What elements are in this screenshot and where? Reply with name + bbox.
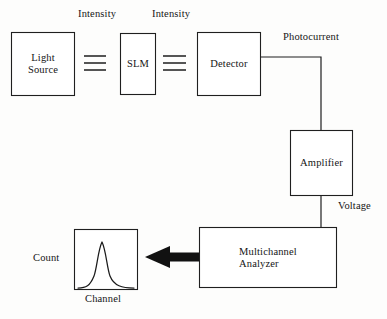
block-light-source-label: Light Source: [11, 32, 75, 96]
label-count-axis: Count: [33, 252, 59, 264]
label-photocurrent: Photocurrent: [283, 31, 339, 43]
label-channel-axis: Channel: [85, 293, 121, 305]
block-amplifier-text: Amplifier: [300, 157, 343, 169]
block-slm-text: SLM: [127, 58, 149, 70]
block-multichannel-analyzer-label: Multichannel Analyzer: [199, 227, 337, 288]
block-detector-text: Detector: [210, 58, 247, 70]
block-detector-label: Detector: [197, 32, 261, 96]
diagram-canvas: Light Source SLM Detector Amplifier Mult…: [0, 0, 387, 319]
block-light-source-text: Light Source: [28, 52, 58, 76]
arrow-mca-to-plot-icon: [145, 246, 199, 268]
label-voltage: Voltage: [338, 200, 371, 212]
wire-photocurrent: [261, 57, 321, 130]
beam-slm-to-detector-icon: [163, 56, 186, 70]
block-slm-label: SLM: [120, 33, 156, 95]
beam-source-to-slm-icon: [84, 56, 106, 70]
block-multichannel-analyzer-text: Multichannel Analyzer: [239, 246, 297, 270]
label-intensity-source-to-slm: Intensity: [78, 8, 116, 20]
label-intensity-slm-to-detector: Intensity: [152, 8, 190, 20]
block-amplifier-label: Amplifier: [290, 130, 353, 196]
